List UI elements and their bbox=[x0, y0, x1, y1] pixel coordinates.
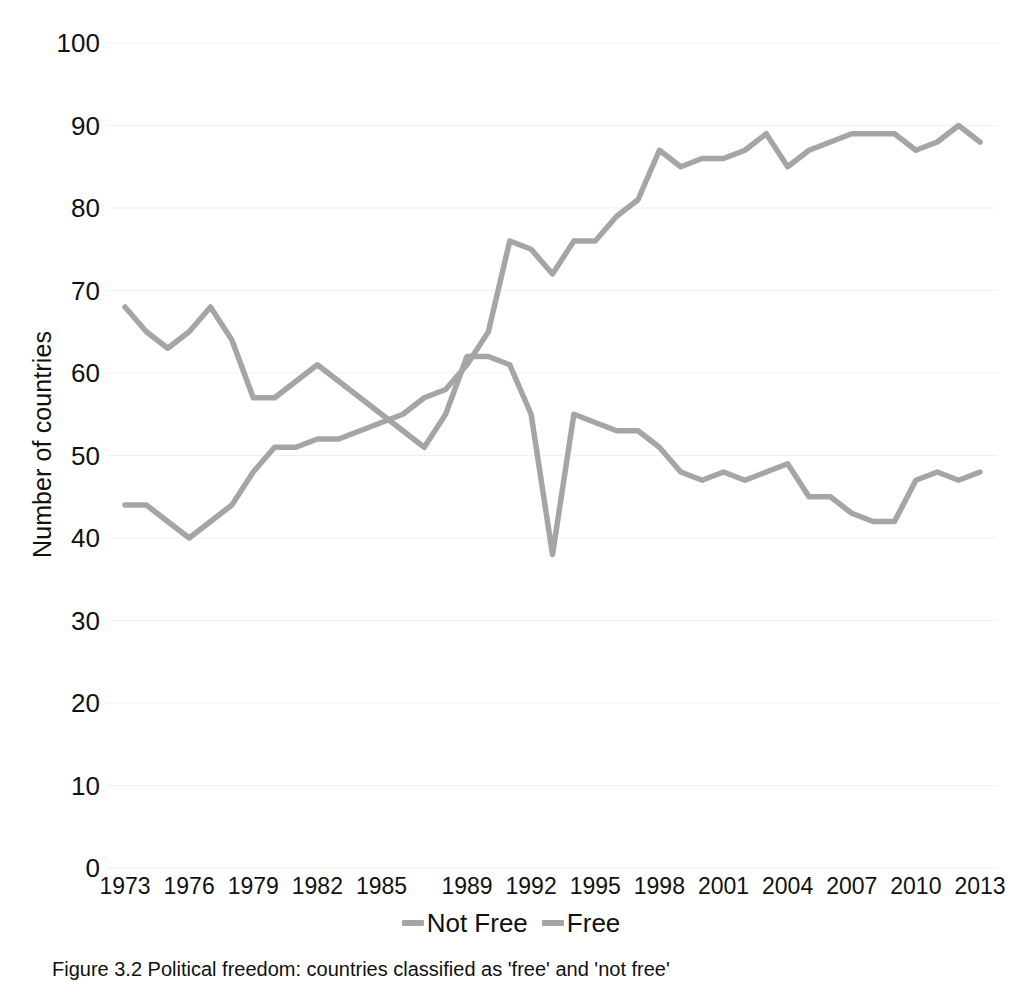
legend-label: Free bbox=[567, 910, 620, 936]
x-tick-label: 1985 bbox=[342, 873, 422, 900]
legend-item-free[interactable]: Free bbox=[542, 910, 620, 936]
data-series-group bbox=[125, 126, 980, 555]
legend-item-not-free[interactable]: Not Free bbox=[402, 910, 528, 936]
legend-line-swatch-icon bbox=[542, 920, 564, 926]
series-line-free bbox=[125, 126, 980, 539]
x-tick-label: 2013 bbox=[940, 873, 1020, 900]
series-line-not-free bbox=[125, 307, 980, 555]
figure-caption: Figure 3.2 Political freedom: countries … bbox=[52, 958, 992, 981]
x-axis-tick-labels: 1973197619791982198519891992199519982001… bbox=[0, 873, 1022, 907]
legend-line-swatch-icon bbox=[402, 920, 424, 926]
legend-label: Not Free bbox=[427, 910, 528, 936]
gridlines bbox=[107, 43, 998, 868]
chart-legend: Not FreeFree bbox=[0, 906, 1022, 940]
